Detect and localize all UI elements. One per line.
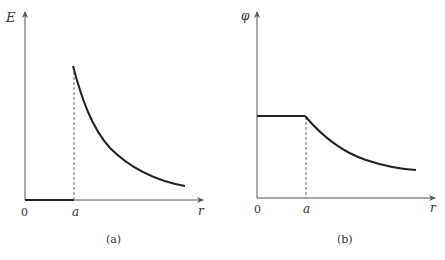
y-axis-label-a: E [5,10,16,25]
x-axis-label-a: r [198,204,205,218]
origin-label-a: 0 [21,206,28,219]
y-axis-label-b: φ [241,9,250,23]
mark-label-b: a [303,202,310,216]
panel-b: φ r 0 a (b) [241,9,437,246]
caption-a: (a) [106,233,121,246]
panel-a: E r 0 a (a) [5,10,205,246]
potential-curve [305,116,416,170]
mark-label-a: a [72,205,79,219]
origin-label-b: 0 [254,203,261,216]
field-curve [73,66,185,186]
caption-b: (b) [337,233,353,246]
x-axis-label-b: r [430,201,437,215]
figure: E r 0 a (a) φ r 0 a (b) [0,0,445,260]
